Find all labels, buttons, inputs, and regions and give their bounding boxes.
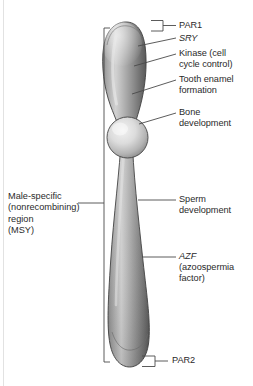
sry-label: SRY [179,33,197,44]
bone-development-label: Bone development [179,107,251,129]
sperm-development-label: Sperm development [179,194,251,216]
par2-label: PAR2 [172,355,195,366]
kinase-label: Kinase (cell cycle control) [179,48,251,70]
azf-gene-name: AZF [179,251,196,261]
tooth-enamel-label: Tooth enamel formation [179,74,251,96]
y-chromosome-figure: Male-specific (nonrecombining) region (M… [0,0,253,386]
par1-label: PAR1 [179,20,202,31]
msy-label: Male-specific (nonrecombining) region (M… [8,191,86,236]
azf-detail: (azoospermia factor) [179,262,234,283]
azf-label: AZF(azoospermia factor) [179,251,251,284]
centromere [107,117,148,158]
chromosome-long-arm [108,134,149,367]
